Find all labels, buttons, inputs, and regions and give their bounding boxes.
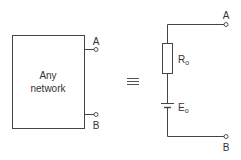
network-block: Any network A B <box>13 36 100 132</box>
bottom-wire <box>168 108 227 137</box>
network-label-line2: network <box>30 83 66 94</box>
network-label-line1: Any <box>39 70 56 81</box>
terminal-b-label: B <box>93 120 100 131</box>
network-box <box>13 36 85 129</box>
terminal-a-label: A <box>93 36 100 47</box>
terminal-a-node-equivalent <box>224 23 228 27</box>
terminal-b-node-equivalent <box>224 135 228 139</box>
terminal-a-node <box>94 48 98 52</box>
terminal-b-node <box>94 113 98 117</box>
terminal-a-label-equivalent: A <box>223 10 230 21</box>
thevenin-diagram: Any network A B A Ro Eo <box>0 0 241 160</box>
diagram-svg: Any network A B A Ro Eo <box>0 0 241 160</box>
equivalence-symbol <box>127 79 139 85</box>
equivalent-circuit: A Ro Eo B <box>161 10 230 153</box>
top-wire <box>168 25 227 44</box>
resistor-icon <box>163 44 173 74</box>
terminal-b-label-equivalent: B <box>223 142 230 153</box>
resistor-label: Ro <box>178 54 189 66</box>
source-label: Eo <box>178 102 189 114</box>
